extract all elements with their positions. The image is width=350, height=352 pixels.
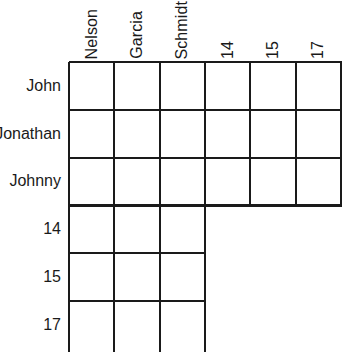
cell-jonathan-schmidt[interactable] xyxy=(160,110,205,158)
cell-15-garcia[interactable] xyxy=(114,253,159,301)
cell-johnny-15[interactable] xyxy=(250,158,295,206)
cell-john-17[interactable] xyxy=(296,62,341,110)
cell-14-schmidt[interactable] xyxy=(160,205,205,253)
cell-15-nelson[interactable] xyxy=(69,253,114,301)
cell-jonathan-garcia[interactable] xyxy=(114,110,159,158)
cell-johnny-schmidt[interactable] xyxy=(160,158,205,206)
cell-15-schmidt[interactable] xyxy=(160,253,205,301)
cell-john-15[interactable] xyxy=(250,62,295,110)
cell-14-garcia[interactable] xyxy=(114,205,159,253)
cell-17-garcia[interactable] xyxy=(114,301,159,349)
cell-john-nelson[interactable] xyxy=(69,62,114,110)
cell-17-nelson[interactable] xyxy=(69,301,114,349)
cell-johnny-nelson[interactable] xyxy=(69,158,114,206)
cell-johnny-17[interactable] xyxy=(296,158,341,206)
cell-jonathan-14[interactable] xyxy=(205,110,250,158)
cell-14-nelson[interactable] xyxy=(69,205,114,253)
cell-john-garcia[interactable] xyxy=(114,62,159,110)
cell-17-schmidt[interactable] xyxy=(160,301,205,349)
logic-grid-puzzle: Nelson Garcia Schmidt 14 15 17 John Jona… xyxy=(0,0,350,352)
cell-jonathan-17[interactable] xyxy=(296,110,341,158)
cell-johnny-garcia[interactable] xyxy=(114,158,159,206)
cell-john-14[interactable] xyxy=(205,62,250,110)
cell-jonathan-15[interactable] xyxy=(250,110,295,158)
cell-john-schmidt[interactable] xyxy=(160,62,205,110)
cell-jonathan-nelson[interactable] xyxy=(69,110,114,158)
cell-johnny-14[interactable] xyxy=(205,158,250,206)
